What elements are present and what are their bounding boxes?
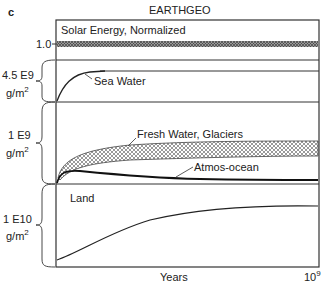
- land-curve: [57, 206, 318, 260]
- chart-title: EARTHGEO: [149, 5, 211, 16]
- land-unit-g: g/m2: [6, 229, 29, 242]
- panel-label: c: [8, 7, 14, 18]
- land-label: Land: [70, 193, 94, 204]
- fresh-water-band: [58, 141, 318, 180]
- solar-tick: 1.0: [36, 39, 51, 50]
- brace-fresh: [36, 102, 55, 184]
- atmos-ocean-curve: [57, 171, 318, 183]
- x-axis-label: Years: [160, 272, 188, 283]
- sea-unit-g: g/m2: [6, 86, 29, 99]
- fresh-unit-g: g/m2: [6, 146, 29, 159]
- x-end-label: 109: [304, 270, 321, 283]
- brace-sea: [36, 60, 55, 102]
- solar-label: Solar Energy, Normalized: [61, 25, 186, 36]
- brace-land: [36, 184, 55, 267]
- solar-band: [57, 41, 318, 47]
- land-unit: 1 E10: [3, 214, 32, 225]
- sea-water-label: Sea Water: [94, 76, 146, 87]
- fresh-unit: 1 E9: [8, 130, 31, 141]
- fresh-water-label: Fresh Water, Glaciers: [137, 129, 243, 140]
- sea-unit: 4.5 E9: [2, 70, 34, 81]
- atmos-ocean-label: Atmos-ocean: [194, 162, 259, 173]
